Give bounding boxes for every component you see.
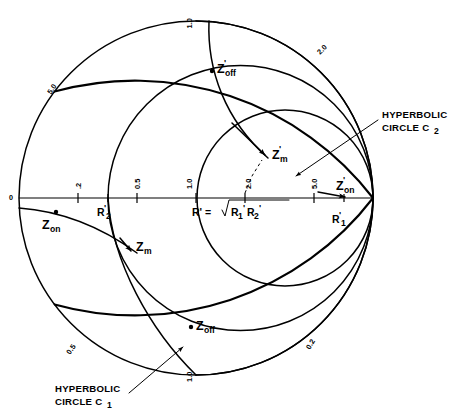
upper-trajectory-curve xyxy=(209,21,268,158)
c2-annotation-line2: CIRCLE C xyxy=(382,122,429,133)
z-m-base: Z xyxy=(136,240,144,254)
label-zp-on: Z ' on xyxy=(336,175,355,195)
rim-label-upper-left-5p0: 5.0 xyxy=(45,82,58,96)
smith-chart-canvas: 1.0 5.0 2.0 0.5 0.2 1.0 0 .2 0.5 1.0 2.0… xyxy=(0,0,452,418)
rim-label-lower-left-0p5: 0.5 xyxy=(64,342,77,356)
r1-prime-sub: 1 xyxy=(341,218,346,228)
zp-m-sub: m xyxy=(280,154,288,164)
annotation-hyperbolic-circle-c1: HYPERBOLIC CIRCLE C 1 xyxy=(55,383,120,410)
zp-on-sub: on xyxy=(344,185,355,195)
smith-chart-figure: 1.0 5.0 2.0 0.5 0.2 1.0 0 .2 0.5 1.0 2.0… xyxy=(0,0,452,418)
c1-annotation-line2: CIRCLE C xyxy=(55,396,102,407)
c1-annotation-sub: 1 xyxy=(107,400,112,410)
label-zp-m: Z ' m xyxy=(272,144,288,164)
zp-off-prime: ' xyxy=(224,58,226,68)
annotation-hyperbolic-circle-c2: HYPERBOLIC CIRCLE C 2 xyxy=(382,109,447,136)
c2-annotation-sub: 2 xyxy=(434,126,439,136)
label-z-m: Z m xyxy=(136,240,152,256)
c2-annotation-line1: HYPERBOLIC xyxy=(382,109,447,120)
marker-dot-z-off xyxy=(189,325,193,329)
label-z-off: Z off xyxy=(196,319,215,335)
zp-on-prime: ' xyxy=(343,175,345,185)
axis-label-1p0: 1.0 xyxy=(185,179,194,189)
z-on-arc xyxy=(19,208,137,253)
label-r1-prime: R ' 1 xyxy=(332,210,346,228)
hyperbolic-circle-c2 xyxy=(55,81,373,198)
label-geometric-mean: R' = R 1 ' R 2 ' xyxy=(192,200,289,221)
zp-off-sub: off xyxy=(225,68,236,78)
arrow-to-z-m xyxy=(120,238,131,251)
zp-m-prime: ' xyxy=(279,144,281,154)
marker-dot-zp-off xyxy=(210,69,214,73)
label-z-on: Z on xyxy=(42,218,61,234)
radicand-r1-prime: ' xyxy=(243,203,245,213)
radicand-r2-prime: ' xyxy=(259,203,261,213)
geometric-mean-prefix: R' = xyxy=(192,206,211,218)
z-on-base: Z xyxy=(42,218,50,232)
axis-label-2p0: 2.0 xyxy=(244,179,253,189)
z-off-base: Z xyxy=(196,319,204,333)
lower-trajectory-curve xyxy=(108,198,196,375)
axis-label-0p2: .2 xyxy=(74,183,83,189)
rim-label-top-1p0: 1.0 xyxy=(185,18,194,29)
z-off-sub: off xyxy=(204,325,215,335)
rim-label-upper-right-2p0: 2.0 xyxy=(315,43,329,57)
z-on-sub: on xyxy=(50,224,61,234)
axis-label-5p0: 5.0 xyxy=(310,179,319,189)
axis-label-zero: 0 xyxy=(9,193,13,202)
rim-label-bottom-1p0: 1.0 xyxy=(185,371,194,382)
rim-label-lower-right-0p2: 0.2 xyxy=(304,337,317,351)
label-zp-off: Z ' off xyxy=(217,58,236,78)
leader-line-c1 xyxy=(129,347,183,393)
axis-label-0p5: 0.5 xyxy=(133,179,142,189)
c1-annotation-line1: HYPERBOLIC xyxy=(55,383,120,394)
arrow-to-zp-m xyxy=(232,123,265,155)
r2-prime-sub: 2 xyxy=(106,211,111,221)
marker-dot-z-on xyxy=(54,210,58,214)
z-m-sub: m xyxy=(144,246,152,256)
